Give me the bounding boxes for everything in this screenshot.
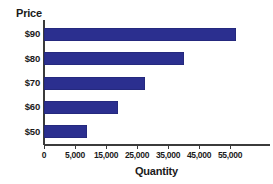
y-tick-label: $90 bbox=[0, 28, 40, 39]
x-tick-label: 5,000 bbox=[65, 150, 85, 160]
bar bbox=[44, 28, 236, 41]
bar bbox=[44, 101, 118, 114]
x-tick-label: 0 bbox=[42, 150, 46, 160]
x-tick-mark bbox=[106, 144, 107, 149]
x-tick-mark bbox=[44, 144, 45, 149]
bar-row bbox=[44, 101, 118, 114]
x-tick-mark bbox=[75, 144, 76, 149]
x-tick-mark bbox=[168, 144, 169, 149]
bar-row bbox=[44, 52, 184, 65]
bar bbox=[44, 77, 145, 90]
x-tick-label: 35,000 bbox=[156, 150, 180, 160]
bar-row bbox=[44, 125, 87, 138]
x-tick-label: 45,000 bbox=[187, 150, 211, 160]
x-tick-label: 15,000 bbox=[94, 150, 118, 160]
x-tick-label: 55,000 bbox=[218, 150, 242, 160]
x-tick-label: 25,000 bbox=[125, 150, 149, 160]
bar-row bbox=[44, 77, 145, 90]
y-tick-label: $60 bbox=[0, 101, 40, 112]
x-axis-title: Quantity bbox=[44, 165, 269, 177]
y-tick-label: $70 bbox=[0, 77, 40, 88]
bar bbox=[44, 125, 87, 138]
x-axis-line bbox=[44, 144, 270, 146]
x-tick-mark bbox=[137, 144, 138, 149]
bar-row bbox=[44, 28, 236, 41]
y-axis-title: Price bbox=[16, 7, 42, 19]
y-tick-label: $50 bbox=[0, 126, 40, 137]
x-tick-mark bbox=[230, 144, 231, 149]
x-tick-mark bbox=[199, 144, 200, 149]
y-tick-label: $80 bbox=[0, 53, 40, 64]
bar bbox=[44, 52, 184, 65]
bar-chart: Price Quantity 05,00015,00025,00035,0004… bbox=[0, 0, 273, 184]
plot-area bbox=[44, 22, 269, 144]
